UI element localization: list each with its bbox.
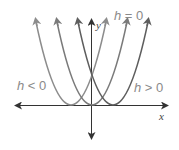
label-rel: = 0 (125, 8, 143, 23)
label-var: h (114, 8, 121, 23)
label-h-greater-than-zero: h > 0 (134, 81, 163, 94)
label-h-equals-zero: h = 0 (114, 9, 143, 22)
label-rel: > 0 (145, 80, 163, 95)
label-var: h (17, 78, 24, 93)
parabola-diagram (0, 0, 179, 150)
x-axis-label: x (159, 111, 164, 122)
label-var: h (134, 80, 141, 95)
parabola-h-negative (36, 22, 106, 105)
label-rel: < 0 (28, 78, 46, 93)
y-axis-label: y (96, 20, 101, 31)
label-h-less-than-zero: h < 0 (17, 79, 46, 92)
